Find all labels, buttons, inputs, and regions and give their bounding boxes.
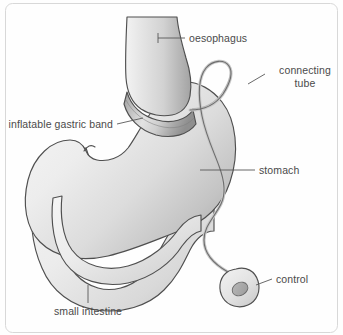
label-control: control [276,273,308,285]
label-small-intestine: small intestine [54,305,122,317]
control[interactable] [220,268,259,307]
diagram-canvas: oesophagus connecting tube inflatable ga… [0,0,343,335]
label-connecting-tube-line1: connecting [279,64,331,76]
gastric-band-diagram: oesophagus connecting tube inflatable ga… [0,0,343,335]
label-inflatable-gastric-band: inflatable gastric band [9,118,114,130]
label-oesophagus: oesophagus [189,32,247,44]
label-connecting-tube-line2: tube [295,77,316,89]
leader-connecting-tube [248,74,265,84]
label-stomach: stomach [259,164,299,176]
oesophagus [126,17,191,116]
